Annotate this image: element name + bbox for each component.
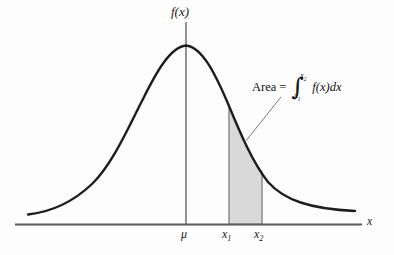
y-axis-label: f(x) (171, 5, 189, 18)
scan-artifact-mark-1: ··· (316, 10, 325, 20)
integral-upper-limit: x2 (300, 71, 306, 82)
integrand-expression: f(x)dx (312, 80, 341, 95)
area-annotation: Area = ∫ x2 x1 f(x)dx (252, 74, 342, 100)
scan-artifact-mark-2: ·· (308, 22, 314, 32)
x-axis-label: x (367, 215, 372, 227)
integral-lower-limit: x1 (294, 91, 300, 102)
annotation-leader-line (245, 97, 281, 142)
tick-label-x2-subscript: 2 (259, 234, 263, 243)
area-annotation-word: Area (252, 80, 276, 95)
normal-distribution-figure: f(x) x μ x1 x2 Area = ∫ x2 x1 f(x)dx ···… (0, 0, 394, 255)
tick-label-x1-subscript: 1 (227, 234, 231, 243)
integral-expression: ∫ x2 x1 (289, 74, 311, 100)
tick-label-x2: x2 (254, 228, 263, 244)
figure-canvas (0, 0, 394, 255)
tick-label-x1: x1 (222, 228, 231, 244)
integral-lower-limit-subscript: 1 (298, 96, 301, 102)
tick-label-mu: μ (181, 228, 187, 240)
area-annotation-equals: = (279, 80, 286, 95)
integral-upper-limit-subscript: 2 (304, 76, 307, 82)
